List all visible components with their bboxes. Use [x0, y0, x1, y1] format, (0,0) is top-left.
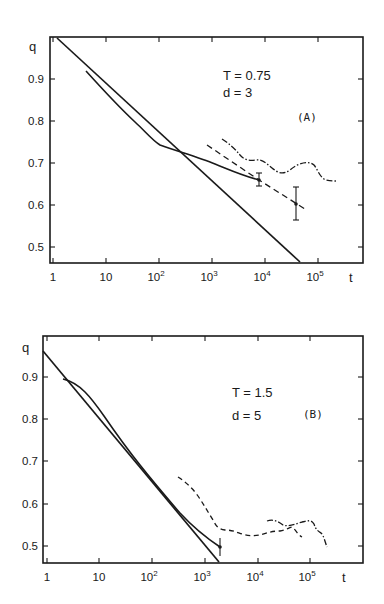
panel-b-fit-line	[43, 351, 219, 562]
panel-b-ylabel: q	[22, 340, 29, 355]
panel-b-dashed-curve	[178, 477, 302, 537]
panel-a-annot-dimension: d = 3	[223, 85, 252, 100]
panel-b-annot-temperature: T = 1.5	[232, 385, 273, 400]
panel-b-xtick-10e3: 103	[193, 569, 211, 583]
panel-a: q 0.9 0.8 0.7 0.6 0.5 1 10 102 103 104 1…	[28, 37, 363, 285]
panel-b-ytick-0.9: 0.9	[22, 371, 38, 383]
panel-a-xtick-1: 1	[50, 271, 56, 283]
panel-a-xtick-10e3: 103	[200, 269, 218, 283]
panel-b-frame	[43, 336, 363, 563]
panel-a-ytick-0.8: 0.8	[28, 115, 44, 127]
panel-a-tag: (A)	[297, 111, 317, 124]
panel-a-ytick-0.7: 0.7	[28, 157, 44, 169]
panel-b-tag: (B)	[303, 408, 323, 421]
panel-b-ytick-0.6: 0.6	[22, 498, 38, 510]
panel-a-dashed-curve	[207, 145, 305, 209]
panel-b-xtick-10e5: 105	[298, 569, 316, 583]
panel-b-ytick-0.7: 0.7	[22, 455, 38, 467]
panel-b-x-ticks	[47, 336, 310, 563]
panel-b-xtick-10e4: 104	[246, 569, 264, 583]
panel-a-xtick-10: 10	[100, 271, 113, 283]
panel-a-xtick-10e4: 104	[253, 269, 271, 283]
panel-b-y-ticks	[43, 377, 363, 546]
panel-b-annot-dimension: d = 5	[232, 408, 261, 423]
panel-b-xtick-1: 1	[44, 571, 50, 583]
panel-b-dashdot-curve	[267, 520, 327, 547]
panel-b-ytick-0.5: 0.5	[22, 540, 38, 552]
panel-a-xtick-10e2: 102	[147, 269, 165, 283]
panel-b: q 0.9 0.8 0.7 0.6 0.5 1 10 102 103 104 1…	[22, 336, 363, 585]
panel-a-point-2	[294, 202, 298, 206]
panel-b-xtick-10: 10	[93, 571, 106, 583]
panel-b-point-1	[218, 545, 222, 549]
panel-a-xlabel: t	[349, 270, 353, 285]
panel-b-xlabel: t	[342, 570, 346, 585]
panel-a-ytick-0.9: 0.9	[28, 73, 44, 85]
panel-b-ytick-0.8: 0.8	[22, 413, 38, 425]
panel-a-ytick-0.5: 0.5	[28, 241, 44, 253]
figure: q 0.9 0.8 0.7 0.6 0.5 1 10 102 103 104 1…	[0, 0, 384, 604]
panel-a-point-1	[257, 178, 261, 182]
panel-a-y-ticks	[50, 79, 363, 247]
panel-a-annot-temperature: T = 0.75	[223, 68, 271, 83]
panel-a-ylabel: q	[29, 39, 36, 54]
panel-a-frame	[50, 37, 363, 263]
panel-a-ytick-0.6: 0.6	[28, 199, 44, 211]
panel-a-dashdot-curve	[222, 139, 337, 181]
panel-a-xtick-10e5: 105	[306, 269, 324, 283]
panel-b-xtick-10e2: 102	[140, 569, 158, 583]
